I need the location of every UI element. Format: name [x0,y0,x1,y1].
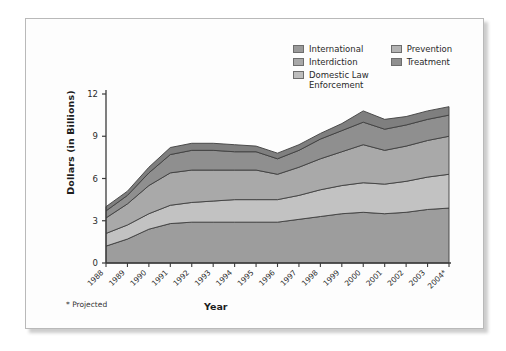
legend-label-interdiction: Interdiction [309,57,358,67]
x-tick-label: 1990 [128,268,148,288]
y-tick-label: 6 [93,174,98,184]
legend-swatch-prevention [391,45,402,53]
chart-screenshot: 0369121988198919901991199219931994199519… [0,0,506,351]
x-tick-label: 1999 [321,268,341,288]
x-tick-label: 1991 [150,268,170,288]
legend-item-domestic-law-enforcement[interactable]: Domestic Law Enforcement [293,70,369,90]
legend-label-international: International [309,44,363,54]
legend-item-treatment[interactable]: Treatment [391,57,452,67]
legend-label-treatment: Treatment [407,57,450,67]
legend-swatch-interdiction [293,58,304,66]
x-tick-label: 2000 [343,268,363,288]
legend-item-interdiction[interactable]: Interdiction [293,57,369,67]
legend-column-right: Prevention Treatment [391,44,452,90]
x-axis-title: Year [204,301,228,312]
x-tick-label: 1989 [107,268,127,288]
x-tick-label: 2002 [386,268,406,288]
chart-panel: 0369121988198919901991199219931994199519… [25,18,484,329]
legend-column-left: International Interdiction Domestic Law … [293,44,369,90]
x-tick-label: 1988 [86,268,106,288]
chart-footnote: * Projected [66,300,107,309]
chart-legend: International Interdiction Domestic Law … [293,44,452,90]
legend-swatch-domestic-law-enforcement [293,71,304,79]
x-tick-label: 1993 [193,268,213,288]
y-tick-label: 0 [93,258,98,268]
legend-item-prevention[interactable]: Prevention [391,44,452,54]
y-tick-label: 12 [87,89,98,99]
legend-label-prevention: Prevention [407,44,452,54]
x-tick-label: 1995 [236,268,256,288]
x-tick-label: 2001 [364,268,384,288]
x-tick-label: 1997 [278,268,298,288]
y-tick-label: 3 [93,216,98,226]
legend-item-international[interactable]: International [293,44,369,54]
legend-label-domestic-law-enforcement: Domestic Law Enforcement [309,70,369,90]
legend-swatch-treatment [391,58,402,66]
y-tick-label: 9 [93,131,98,141]
y-axis-title: Dollars (in Billions) [65,83,76,203]
x-tick-label: 2004* [426,268,449,291]
x-tick-label: 1998 [300,268,320,288]
x-tick-label: 2003 [407,268,427,288]
legend-swatch-international [293,45,304,53]
x-tick-label: 1994 [214,268,234,288]
x-tick-label: 1996 [257,268,277,288]
x-tick-label: 1992 [171,268,191,288]
